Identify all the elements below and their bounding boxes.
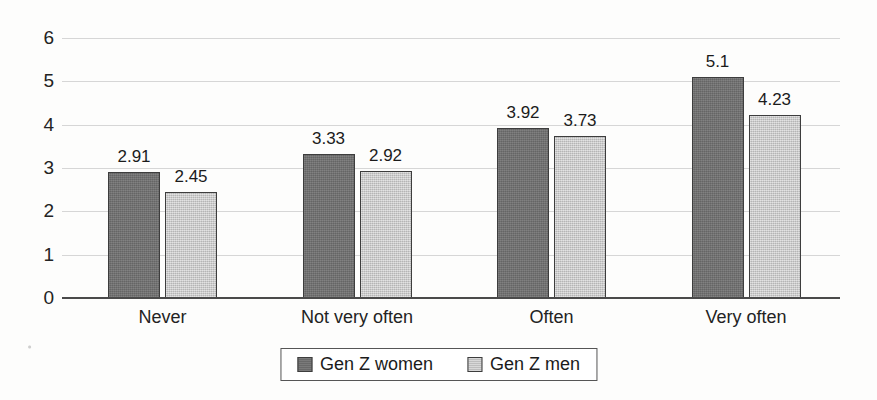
bar-column: 3.33 <box>303 38 355 298</box>
bar-group: 3.923.73 <box>497 38 606 298</box>
bar-value-label: 2.91 <box>117 148 150 165</box>
y-axis-tick-label: 6 <box>14 28 54 47</box>
bar-value-label: 3.33 <box>312 130 345 147</box>
y-axis-tick-label: 5 <box>14 71 54 90</box>
y-axis-tick-label: 4 <box>14 115 54 134</box>
bar-column: 2.45 <box>165 38 217 298</box>
x-axis-category-label: Never <box>138 306 186 328</box>
bar-group: 5.14.23 <box>692 38 801 298</box>
bar-column: 4.23 <box>749 38 801 298</box>
x-axis-category-label: Very often <box>705 306 786 328</box>
plot-area: 2.912.453.332.923.923.735.14.23 <box>62 38 840 298</box>
x-axis-category-label: Not very often <box>301 306 413 328</box>
legend-item-label: Gen Z men <box>490 354 580 374</box>
y-axis-tick-label: 2 <box>14 201 54 220</box>
bar-gen-z-men[interactable] <box>165 192 217 298</box>
bar-column: 3.92 <box>497 38 549 298</box>
bar-gen-z-men[interactable] <box>554 136 606 298</box>
y-axis: 6543210 <box>10 38 54 298</box>
x-axis-category-label: Often <box>529 306 573 328</box>
legend-item-label: Gen Z women <box>320 354 433 374</box>
bar-value-label: 3.92 <box>506 104 539 121</box>
light-gray-swatch-icon <box>467 357 482 372</box>
bar-column: 3.73 <box>554 38 606 298</box>
y-axis-tick-label: 1 <box>14 245 54 264</box>
bar-group: 2.912.45 <box>108 38 217 298</box>
bar-value-label: 2.45 <box>174 168 207 185</box>
bar-group: 3.332.92 <box>303 38 412 298</box>
bar-chart: 6543210 2.912.453.332.923.923.735.14.23 … <box>0 0 877 400</box>
bar-gen-z-men[interactable] <box>749 115 801 298</box>
bar-gen-z-women[interactable] <box>497 128 549 298</box>
legend-item[interactable]: Gen Z men <box>467 354 580 374</box>
chart-legend: Gen Z womenGen Z men <box>280 348 597 381</box>
y-axis-tick-label: 0 <box>14 288 54 307</box>
bar-gen-z-women[interactable] <box>692 77 744 298</box>
bar-column: 2.91 <box>108 38 160 298</box>
bar-gen-z-men[interactable] <box>360 171 412 298</box>
bar-value-label: 2.92 <box>369 147 402 164</box>
bar-column: 2.92 <box>360 38 412 298</box>
bar-value-label: 4.23 <box>758 91 791 108</box>
dark-gray-swatch-icon <box>297 357 312 372</box>
bar-value-label: 5.1 <box>706 53 730 70</box>
bar-gen-z-women[interactable] <box>303 154 355 298</box>
bar-column: 5.1 <box>692 38 744 298</box>
scan-artifact <box>24 342 38 352</box>
x-axis-line <box>62 297 840 299</box>
bar-value-label: 3.73 <box>563 112 596 129</box>
legend-item[interactable]: Gen Z women <box>297 354 433 374</box>
bar-gen-z-women[interactable] <box>108 172 160 298</box>
y-axis-tick-label: 3 <box>14 158 54 177</box>
